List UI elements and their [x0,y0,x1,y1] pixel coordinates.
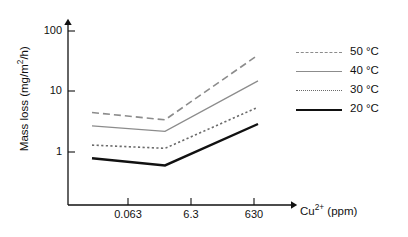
legend-label-40c: 40 °C [350,64,379,78]
legend-label-30c: 30 °C [350,83,379,97]
x-axis-ticks [128,198,254,205]
x-tick-label-0-063: 0.063 [98,209,158,220]
y-tick-label-10: 10 [26,85,62,96]
x-axis-title-superscript: 2+ [315,203,324,212]
legend-swatch-20c [296,109,342,111]
x-axis-title-unit: (ppm) [324,205,357,217]
legend-swatch-50c [296,52,342,53]
x-tick-label-6-3: 6.3 [161,209,221,220]
y-axis-title: Mass loss (mg/m2/h) [17,29,30,169]
legend-item-50c: 50 °C [296,44,402,63]
y-axis-title-prefix: Mass loss (mg/m [18,64,30,151]
y-axis-title-suffix: /h) [18,46,30,59]
series-line-50-c [92,55,258,120]
y-tick-label-100: 100 [26,25,62,36]
legend-item-20c: 20 °C [296,101,402,120]
legend-item-40c: 40 °C [296,63,402,82]
legend-label-20c: 20 °C [350,102,379,116]
legend-item-30c: 30 °C [296,82,402,101]
chart-figure: 100 10 1 0.063 6.3 630 Mass loss (mg/m2/… [0,0,408,237]
x-axis-title: Cu2+ (ppm) [300,204,357,217]
y-axis-ticks [68,31,75,152]
y-tick-label-1: 1 [26,146,62,157]
series-line-40-c [92,81,258,131]
y-axis-title-superscript: 2 [16,60,25,65]
chart-legend: 50 °C 40 °C 30 °C 20 °C [296,44,402,120]
x-axis-title-base: Cu [300,205,315,217]
x-tick-label-630: 630 [224,209,284,220]
chart-series-group [92,55,258,165]
legend-swatch-30c [296,90,342,91]
legend-swatch-40c [296,71,342,72]
legend-label-50c: 50 °C [350,45,379,59]
